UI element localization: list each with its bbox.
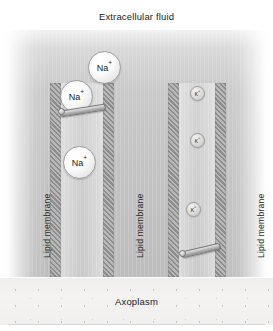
potassium-channel-gate-hinge <box>179 250 186 257</box>
extracellular-fluid-label: Extracellular fluid <box>0 11 273 22</box>
membrane-bar-3 <box>168 83 179 277</box>
sodium-ion-gate-text: Na+ <box>69 92 84 102</box>
potassium-ion-lower-text: K+ <box>191 207 196 213</box>
baseline-rule <box>8 324 265 325</box>
sodium-ion-outer: Na+ <box>88 51 121 84</box>
potassium-ion-lower: K+ <box>186 202 201 217</box>
lipid-membrane-label-right: Lipid membrane <box>256 194 266 258</box>
potassium-ion-mid: K+ <box>190 133 205 148</box>
sodium-channel-gate-hinge <box>58 108 65 115</box>
sodium-ion-inner-text: Na+ <box>72 158 87 168</box>
lipid-membrane-label-center: Lipid membrane <box>135 194 145 258</box>
axoplasm-boundary <box>0 277 273 278</box>
membrane-bar-2 <box>103 83 114 277</box>
lipid-membrane-label-left: Lipid membrane <box>42 194 52 258</box>
axoplasm-label: Axoplasm <box>0 296 273 307</box>
diagram-canvas: Extracellular fluid Lipid membrane Lipid… <box>0 0 273 331</box>
potassium-ion-mid-text: K+ <box>195 138 200 144</box>
potassium-ion-upper: K+ <box>190 86 205 101</box>
potassium-ion-upper-text: K+ <box>195 91 200 97</box>
sodium-ion-outer-text: Na+ <box>97 63 112 73</box>
sodium-ion-inner: Na+ <box>63 146 96 179</box>
